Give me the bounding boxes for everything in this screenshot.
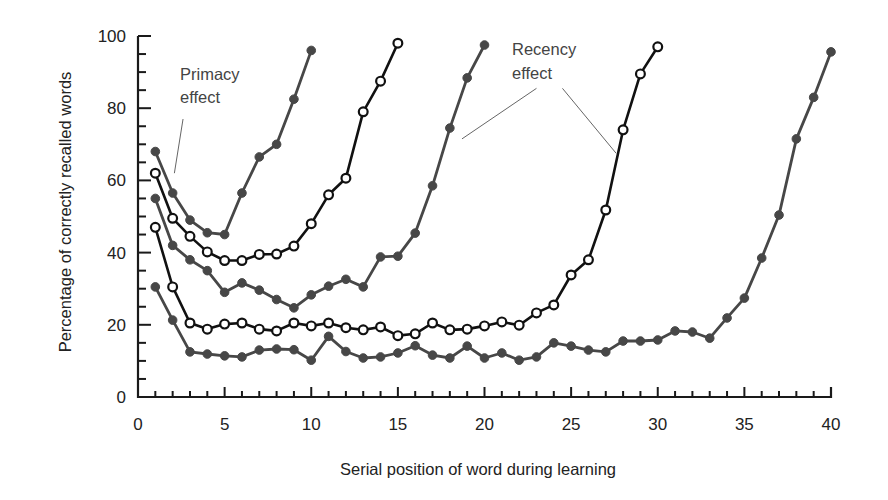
data-point-filled <box>255 346 264 355</box>
y-tick-label: 40 <box>107 244 126 263</box>
data-point-open <box>186 319 195 328</box>
data-point-filled <box>307 46 316 55</box>
data-point-filled <box>220 230 229 239</box>
data-point-filled <box>394 252 403 261</box>
serial-position-chart: 0510152025303540020406080100 Primacy eff… <box>0 0 888 500</box>
data-point-open <box>203 325 212 334</box>
data-point-filled <box>446 124 455 133</box>
y-tick-label: 20 <box>107 316 126 335</box>
data-point-filled <box>567 342 576 351</box>
data-point-filled <box>290 95 299 104</box>
data-point-filled <box>446 354 455 363</box>
data-point-filled <box>272 345 281 354</box>
data-point-open <box>567 271 576 280</box>
data-point-open <box>636 70 645 79</box>
recency-leader-line <box>462 88 536 139</box>
data-point-open <box>342 323 351 332</box>
data-point-filled <box>723 314 732 323</box>
data-point-open <box>359 107 368 116</box>
data-point-open <box>151 169 160 178</box>
data-point-filled <box>186 216 195 225</box>
y-tick-label: 100 <box>98 27 126 46</box>
data-point-filled <box>601 348 610 357</box>
data-point-open <box>272 250 281 259</box>
data-point-open <box>255 325 264 334</box>
data-point-filled <box>636 337 645 346</box>
data-point-open <box>290 242 299 251</box>
data-point-open <box>480 321 489 330</box>
data-point-open <box>168 282 177 291</box>
data-point-open <box>186 232 195 241</box>
data-point-filled <box>809 93 818 102</box>
data-point-filled <box>203 350 212 359</box>
primacy-label-line1: Primacy <box>180 65 240 83</box>
data-point-filled <box>671 327 680 336</box>
x-tick-label: 20 <box>475 415 494 434</box>
primacy-label-line2: effect <box>180 88 220 106</box>
data-point-filled <box>584 346 593 355</box>
data-point-filled <box>255 153 264 162</box>
data-point-open <box>359 325 368 334</box>
data-point-open <box>220 320 229 329</box>
data-point-open <box>428 319 437 328</box>
data-point-filled <box>376 253 385 262</box>
recency-label-line1: Recency <box>512 40 577 58</box>
data-point-open <box>619 125 628 134</box>
data-point-filled <box>324 332 333 341</box>
data-point-filled <box>324 282 333 291</box>
data-point-open <box>324 190 333 199</box>
data-point-open <box>307 321 316 330</box>
data-point-filled <box>290 304 299 313</box>
data-point-filled <box>151 283 160 292</box>
data-point-filled <box>168 189 177 198</box>
x-tick-label: 5 <box>220 415 229 434</box>
data-point-open <box>220 256 229 265</box>
x-tick-label: 40 <box>822 415 841 434</box>
y-tick-label: 80 <box>107 99 126 118</box>
axis-frame <box>138 36 831 397</box>
data-point-filled <box>757 254 766 263</box>
data-point-filled <box>238 189 247 198</box>
data-point-open <box>203 247 212 256</box>
x-tick-label: 0 <box>133 415 142 434</box>
data-point-open <box>342 174 351 183</box>
data-point-filled <box>151 194 160 203</box>
data-point-open <box>601 206 610 215</box>
y-tick-label: 0 <box>117 388 126 407</box>
data-point-filled <box>168 241 177 250</box>
data-point-open <box>549 301 558 310</box>
data-point-open <box>411 329 420 338</box>
data-point-filled <box>290 345 299 354</box>
data-point-open <box>290 319 299 328</box>
data-point-filled <box>792 135 801 144</box>
data-point-open <box>238 256 247 265</box>
data-point-filled <box>411 229 420 238</box>
data-point-filled <box>272 140 281 149</box>
y-tick-label: 60 <box>107 171 126 190</box>
data-point-filled <box>186 348 195 357</box>
recency-label-line2: effect <box>512 64 552 82</box>
data-point-filled <box>255 286 264 295</box>
data-point-open <box>515 321 524 330</box>
data-point-filled <box>428 182 437 191</box>
x-tick-label: 10 <box>302 415 321 434</box>
data-point-open <box>653 42 662 51</box>
data-point-open <box>307 219 316 228</box>
data-point-filled <box>515 356 524 365</box>
data-point-filled <box>238 279 247 288</box>
series-layer <box>151 39 835 365</box>
data-point-filled <box>619 337 628 346</box>
x-tick-label: 30 <box>648 415 667 434</box>
data-point-open <box>497 318 506 327</box>
data-point-open <box>376 77 385 86</box>
data-point-filled <box>498 349 507 358</box>
data-point-filled <box>688 328 697 337</box>
x-tick-label: 15 <box>388 415 407 434</box>
data-point-open <box>168 214 177 223</box>
data-point-filled <box>827 48 836 57</box>
data-point-filled <box>342 347 351 356</box>
data-point-filled <box>775 211 784 220</box>
data-point-open <box>584 255 593 264</box>
data-point-filled <box>428 351 437 360</box>
series-40-word-list <box>151 48 835 365</box>
